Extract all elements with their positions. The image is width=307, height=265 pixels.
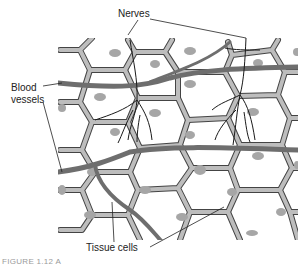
blood-vessels-label-line1: Blood [11,82,37,93]
tissue-cell-network [58,38,301,245]
tissue-cells-label: Tissue cells [86,242,138,253]
figure-caption: FIGURE 1.12 A [2,257,61,265]
blood-vessels-label-line2: vessels [11,94,44,105]
nerves-label: Nerves [118,8,150,19]
tissue-diagram [0,0,307,265]
